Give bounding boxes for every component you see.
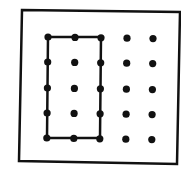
grid-dot — [149, 35, 156, 42]
grid-dot — [97, 110, 104, 117]
grid-dot — [71, 34, 78, 41]
grid-dot — [149, 111, 156, 118]
grid-dot — [123, 86, 130, 93]
grid-dot — [71, 110, 78, 117]
grid-dot — [44, 109, 51, 116]
grid-dot — [97, 59, 104, 66]
grid-dot — [44, 58, 51, 65]
geoboard-diagram — [0, 0, 181, 174]
grid-dot — [43, 134, 50, 141]
grid-dot — [70, 135, 77, 142]
grid-dot — [149, 86, 156, 93]
grid-dot — [123, 35, 130, 42]
grid-dot — [149, 60, 156, 67]
grid-dot — [44, 84, 51, 91]
grid-dot — [71, 85, 78, 92]
grid-dot — [148, 136, 155, 143]
grid-dot — [44, 33, 51, 40]
grid-dot — [122, 136, 129, 143]
grid-dot — [71, 59, 78, 66]
grid-dot — [96, 135, 103, 142]
grid-dot — [97, 85, 104, 92]
grid-dot — [123, 60, 130, 67]
grid-dot — [97, 34, 104, 41]
grid-dot — [123, 111, 130, 118]
